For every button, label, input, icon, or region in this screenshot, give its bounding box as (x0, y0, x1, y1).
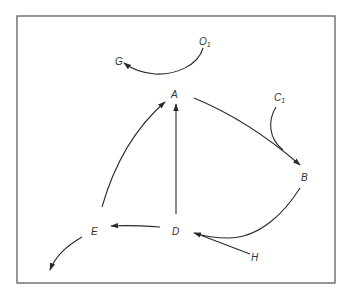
edge-o1-to-g (124, 48, 203, 74)
edge-e-outflow (50, 237, 82, 270)
edge-a-to-b (194, 98, 300, 165)
node-label-g: G (115, 56, 123, 67)
node-label-h: H (251, 252, 259, 263)
edge-e-to-a (102, 102, 165, 207)
node-label-e: E (91, 226, 98, 237)
node-label-o1: O1 (199, 36, 211, 48)
node-label-d: D (172, 226, 179, 237)
node-label-a: A (170, 89, 178, 100)
flow-diagram: O1 G A C1 B D E H (0, 0, 350, 297)
node-label-c1: C1 (274, 92, 285, 104)
edge-d-to-e (111, 226, 160, 227)
edge-b-to-d (194, 188, 300, 238)
node-label-b: B (301, 172, 308, 183)
